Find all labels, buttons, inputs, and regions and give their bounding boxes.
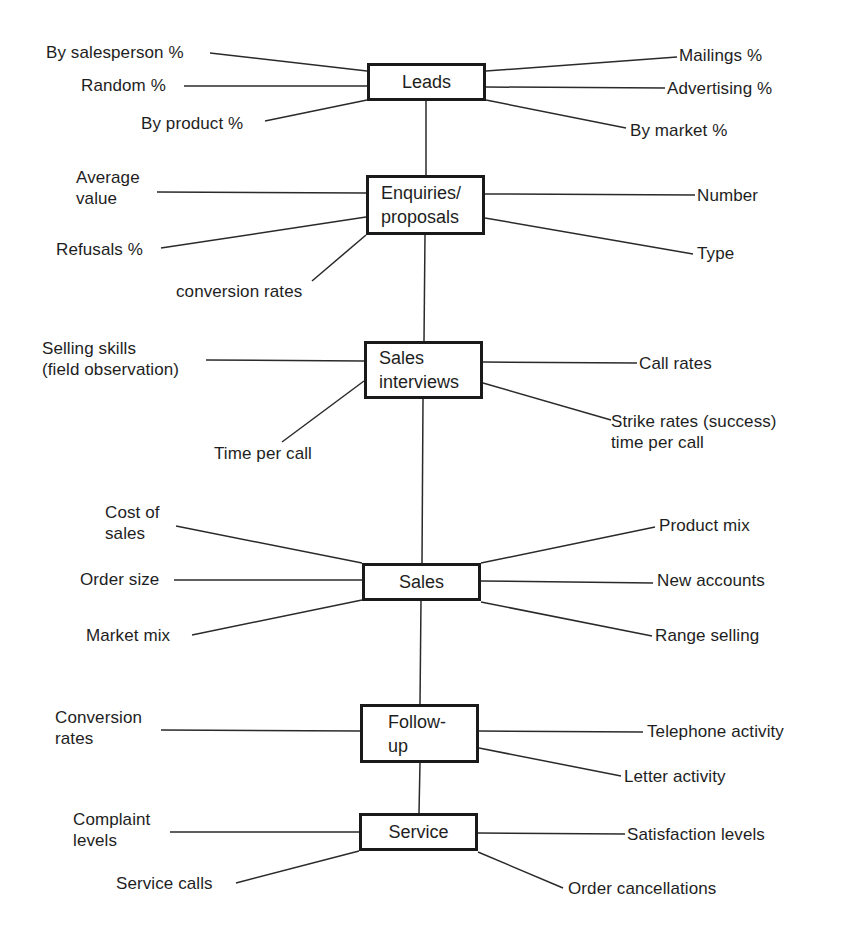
stage-box-service: Service <box>359 813 478 851</box>
metric-average-value: Average value <box>76 167 140 209</box>
metric-advertising: Advertising % <box>667 78 772 99</box>
stage-label-sales-interviews: Sales interviews <box>379 346 459 394</box>
metric-number: Number <box>697 185 758 206</box>
metric-strike-rates: Strike rates (success) time per call <box>611 411 777 453</box>
stage-box-follow-up: Follow- up <box>360 704 479 763</box>
metric-conversion-rates-followup: Conversion rates <box>55 707 142 749</box>
metric-type: Type <box>697 243 734 264</box>
stage-box-sales: Sales <box>362 563 481 601</box>
stage-label-service: Service <box>388 820 448 844</box>
stage-label-sales: Sales <box>399 570 444 594</box>
metric-by-market: By market % <box>630 120 727 141</box>
stage-box-sales-interviews: Sales interviews <box>364 341 483 399</box>
stage-label-leads: Leads <box>402 70 451 94</box>
metric-market-mix: Market mix <box>86 625 170 646</box>
metric-selling-skills: Selling skills (field observation) <box>42 338 179 380</box>
metric-telephone-activity: Telephone activity <box>647 721 784 742</box>
metric-range-selling: Range selling <box>655 625 759 646</box>
metric-new-accounts: New accounts <box>657 570 765 591</box>
metric-refusals: Refusals % <box>56 239 143 260</box>
metric-service-calls: Service calls <box>116 873 213 894</box>
stage-label-follow-up: Follow- up <box>388 710 446 758</box>
metric-product-mix: Product mix <box>659 515 750 536</box>
metric-time-per-call: Time per call <box>214 443 312 464</box>
sales-funnel-diagram: Leads Enquiries/ proposals Sales intervi… <box>0 0 857 946</box>
metric-random: Random % <box>81 75 166 96</box>
metric-satisfaction-levels: Satisfaction levels <box>627 824 765 845</box>
connector-lines <box>0 0 857 946</box>
metric-mailings: Mailings % <box>679 45 762 66</box>
metric-letter-activity: Letter activity <box>624 766 726 787</box>
metric-complaint-levels: Complaint levels <box>73 809 150 851</box>
stage-box-enquiries: Enquiries/ proposals <box>366 175 485 235</box>
metric-by-salesperson: By salesperson % <box>46 42 184 63</box>
metric-call-rates: Call rates <box>639 353 712 374</box>
metric-order-size: Order size <box>80 569 159 590</box>
metric-order-cancellations: Order cancellations <box>568 878 716 899</box>
stage-label-enquiries: Enquiries/ proposals <box>381 181 461 229</box>
stage-box-leads: Leads <box>367 63 486 101</box>
metric-conversion-rates: conversion rates <box>176 281 302 302</box>
metric-by-product: By product % <box>141 113 243 134</box>
metric-cost-of-sales: Cost of sales <box>105 502 160 544</box>
